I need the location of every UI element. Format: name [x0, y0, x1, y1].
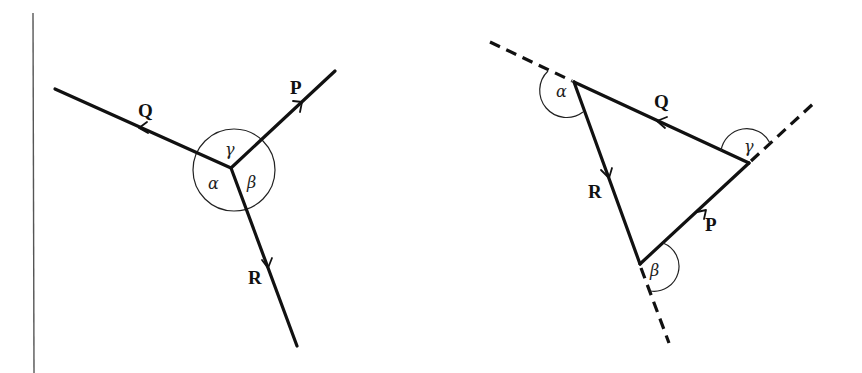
angle-alpha-label: α [208, 174, 219, 193]
concurrent-forces-figure: Q P R γ α β [55, 71, 335, 346]
angle-beta-label: β [246, 173, 256, 192]
vector-p-line [231, 71, 335, 168]
force-triangle-figure: Q R P α γ β [490, 42, 814, 343]
vector-p-label: P [290, 77, 302, 98]
angle-beta-label: β [649, 261, 659, 280]
extension-q-dashed-line [490, 42, 572, 81]
side-p-line [640, 163, 749, 264]
side-p-label: P [705, 214, 717, 235]
vector-q-label: Q [138, 100, 153, 121]
angle-gamma-label: γ [744, 137, 754, 156]
angle-alpha-label: α [556, 82, 567, 101]
vector-r-label: R [248, 267, 262, 288]
angle-gamma-label: γ [225, 140, 235, 159]
side-q-label: Q [654, 91, 669, 112]
margin-divider-line [33, 13, 34, 373]
side-r-label: R [588, 181, 602, 202]
vector-r-line [231, 168, 297, 346]
force-diagram: Q P R γ α β Q R P α [0, 0, 862, 373]
